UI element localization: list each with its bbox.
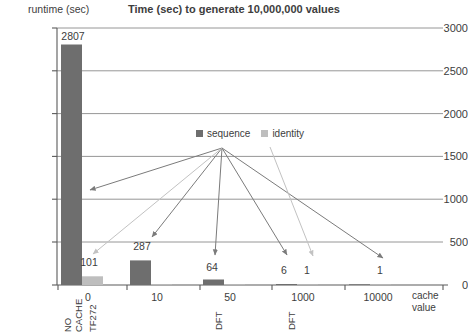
data-label-6: 6 [274, 264, 294, 276]
legend-swatch-identity [261, 130, 268, 137]
data-label-287: 287 [127, 240, 157, 252]
data-label-1-10000: 1 [370, 264, 390, 276]
legend-item-identity: identity [261, 128, 304, 139]
chart-container: Time (sec) to generate 10,000,000 values… [0, 0, 468, 336]
bar-sequence-10 [130, 260, 151, 285]
bar-identity-0 [82, 276, 103, 285]
bars-identity [82, 276, 391, 285]
arrow-to-287 [152, 148, 222, 237]
y-axis-ticks [52, 28, 57, 285]
data-label-2807: 2807 [56, 30, 90, 42]
x-annotation-no: NO [62, 318, 73, 332]
x-annotation-dft-2: DFT [286, 312, 297, 330]
arrow-to-1-1000 [270, 147, 313, 256]
bar-identity-10 [151, 284, 172, 285]
y-tick-500: 500 [416, 236, 468, 248]
bar-sequence-10000 [349, 284, 370, 285]
x-annotation-tf272: TF272 [87, 305, 98, 332]
x-tick-50: 50 [215, 291, 245, 303]
legend-item-sequence: sequence [196, 128, 250, 139]
x-tick-1000: 1000 [283, 291, 323, 303]
x-annotation-dft-1: DFT [213, 312, 224, 330]
plot-svg [0, 0, 468, 336]
bar-sequence-0 [61, 45, 82, 286]
x-axis-title-line2: value [412, 302, 439, 314]
y-tick-1000: 1000 [416, 193, 468, 205]
leader-arrows-identity [93, 147, 313, 256]
arrow-to-2807 [90, 148, 222, 190]
x-axis-title: cache value [412, 290, 439, 313]
legend-label-identity: identity [272, 128, 304, 139]
data-label-1-1000: 1 [297, 264, 317, 276]
chart-legend: sequence identity [196, 128, 304, 139]
x-tick-10000: 10000 [356, 291, 400, 303]
bar-sequence-50 [203, 280, 224, 286]
legend-label-sequence: sequence [207, 128, 250, 139]
arrow-to-101 [93, 148, 222, 254]
y-tick-2000: 2000 [416, 108, 468, 120]
x-axis-ticks [58, 285, 443, 290]
legend-swatch-sequence [196, 130, 203, 137]
arrow-to-1-10000 [222, 148, 383, 258]
data-label-101: 101 [76, 256, 102, 268]
x-axis-title-line1: cache [412, 290, 439, 302]
y-tick-1500: 1500 [416, 150, 468, 162]
x-tick-10: 10 [142, 291, 172, 303]
bar-identity-50 [224, 284, 245, 285]
bar-identity-10000 [370, 285, 391, 286]
x-annotation-cache: CACHE [73, 299, 84, 332]
y-tick-3000: 3000 [416, 22, 468, 34]
bar-sequence-1000 [276, 284, 297, 285]
bar-identity-1000 [297, 285, 318, 286]
y-tick-2500: 2500 [416, 65, 468, 77]
arrow-to-64 [215, 148, 222, 255]
data-label-64: 64 [199, 261, 225, 273]
